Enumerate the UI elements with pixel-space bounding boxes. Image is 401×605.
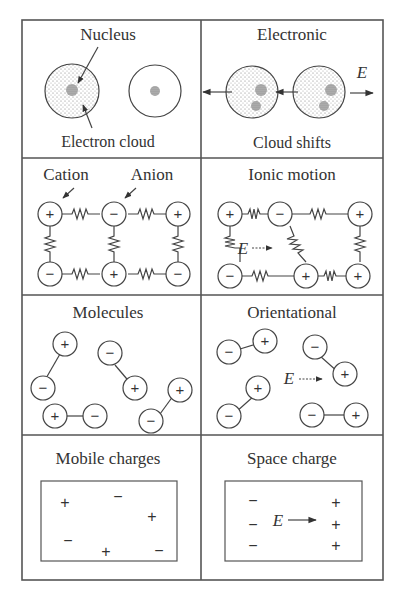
panel-molecules: Molecules + − − + + − + − [31,303,192,433]
svg-text:−: − [226,267,235,284]
svg-text:+: + [131,379,140,396]
dipole-molecule: − + [98,341,147,400]
svg-text:−: − [106,344,115,361]
negative-charge: − [248,516,257,533]
anion-ion: − [102,202,126,226]
field-e-label: E [237,239,249,258]
positive-charge: + [101,543,110,560]
svg-text:+: + [356,205,365,222]
dipole-molecule: + − [217,376,270,428]
electronic-title: Electronic [257,25,327,44]
svg-text:+: + [110,265,119,282]
anion-ion: − [268,202,292,226]
anion-ion: − [218,264,242,288]
anion-ion: − [38,262,62,286]
positive-charge: + [147,508,156,525]
negative-charge: − [154,542,163,559]
positive-charge: + [60,494,69,511]
svg-text:+: + [341,365,350,382]
cloud-shifts-label: Cloud shifts [253,134,331,151]
svg-text:+: + [254,379,263,396]
anion-ion: − [166,262,190,286]
shifted-cloud-right-icon [293,66,345,118]
svg-text:−: − [308,406,317,423]
svg-text:+: + [261,332,270,349]
panel-mobile-charges: Mobile charges + − + − + − [41,449,177,561]
negative-charge: − [63,532,72,549]
svg-text:+: + [354,267,363,284]
svg-text:+: + [352,406,361,423]
anion-label: Anion [131,165,174,184]
svg-text:−: − [110,205,119,222]
field-e-label: E [283,369,295,388]
positive-charge: + [331,494,340,511]
svg-text:+: + [176,381,185,398]
electron-cloud-label: Electron cloud [61,133,155,150]
negative-charge: − [113,488,122,505]
polarization-mechanisms-diagram: Nucleus Electron cloud Electronic E Clou… [0,0,401,605]
cation-ion: + [346,264,370,288]
panel-electronic-atom: Nucleus Electron cloud [45,25,181,150]
panel-space-charge: Space charge − − − + + + E [225,449,362,561]
svg-text:+: + [226,205,235,222]
cation-ion: + [348,202,372,226]
field-e-label: E [272,511,284,530]
svg-text:−: − [276,205,285,222]
negative-charge: − [248,492,257,509]
dipole-molecule: − + [303,335,357,386]
ionic-motion-title: Ionic motion [248,165,336,184]
svg-text:−: − [311,338,320,355]
material-box [225,481,362,561]
shifted-cloud-left-icon [226,66,278,118]
panel-electronic-shift: Electronic E Cloud shifts [203,25,373,151]
svg-text:+: + [61,335,70,352]
cation-ion: + [38,202,62,226]
field-e-label: E [356,63,368,82]
dipole-molecule: + − [31,332,77,400]
panel-ionic-lattice: Cation Anion + − + − + − [38,165,190,286]
nucleus-label: Nucleus [80,25,136,44]
positive-charge: + [331,537,340,554]
molecules-title: Molecules [73,303,144,322]
svg-text:+: + [46,205,55,222]
svg-text:−: − [91,407,100,424]
positive-charge: + [331,516,340,533]
cation-ion: + [166,202,190,226]
svg-text:+: + [302,267,311,284]
mobile-charges-title: Mobile charges [56,449,161,468]
orientational-title: Orientational [247,303,337,322]
svg-text:−: − [39,379,48,396]
cation-ion: + [294,264,318,288]
svg-text:+: + [174,205,183,222]
svg-text:+: + [51,407,60,424]
svg-text:−: − [225,407,234,424]
cation-label: Cation [43,165,89,184]
negative-charge: − [248,537,257,554]
space-charge-title: Space charge [247,449,337,468]
panel-orientational: Orientational − + − + + − − + E [217,303,368,428]
svg-text:−: − [225,343,234,360]
svg-text:−: − [46,265,55,282]
cation-ion: + [102,262,126,286]
svg-text:−: − [174,265,183,282]
panel-ionic-motion: Ionic motion E + − + − + + [218,165,372,288]
svg-text:−: − [147,412,156,429]
cation-ion: + [218,202,242,226]
